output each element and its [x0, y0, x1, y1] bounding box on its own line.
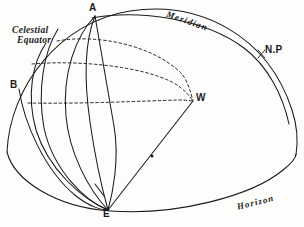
dome-outline-curve	[7, 9, 297, 155]
north-pole-cross-icon	[258, 50, 265, 58]
parallel-dashed-3-curve	[28, 100, 193, 103]
meridian-arc-curve	[92, 15, 289, 124]
parallel-dashed-2-curve	[32, 63, 193, 101]
diagram-canvas	[0, 0, 304, 227]
celestial-equator-curve	[31, 43, 108, 210]
hour-circle-5-curve	[41, 29, 108, 210]
parallel-dashed-1-curve	[57, 39, 193, 101]
chord-marker-dot	[151, 155, 154, 158]
hour-circle-2-curve	[86, 16, 108, 210]
chord-e-w-line	[108, 101, 193, 210]
celestial-sphere-figure: Celestial Equator Meridian Horizon A B E…	[0, 0, 304, 227]
hour-circle-1-curve	[65, 16, 108, 210]
hour-circle-3-curve	[95, 16, 116, 210]
